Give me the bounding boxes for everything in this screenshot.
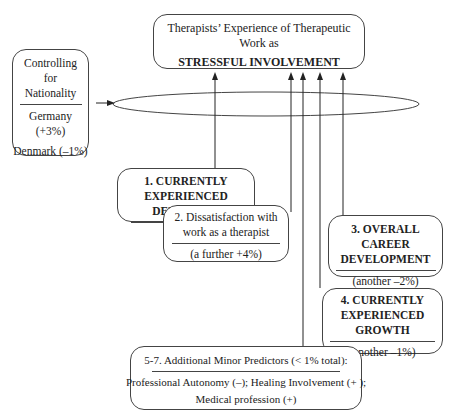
divider [336,270,436,271]
control-nationality-box: Controlling for Nationality Germany (+3%… [12,49,89,156]
target-line1: Therapists’ Experience of Therapeutic Wo… [154,21,364,51]
predictor-3-value: (another –2%) [329,274,442,289]
predictor-2-box: 2. Dissatisfaction with work as a therap… [163,205,289,262]
control-item-germany: Germany (+3%) [13,109,88,139]
control-title-1: Controlling [13,56,88,71]
divider [172,243,280,244]
target-outcome-box: Therapists’ Experience of Therapeutic Wo… [153,14,365,69]
predictor-3-title: 3. OVERALL CAREER DEVELOPMENT [329,222,442,267]
predictor-5-7-value2: Medical profession (+) [131,392,361,407]
target-line2: STRESSFUL INVOLVEMENT [154,55,364,70]
predictor-4-box: 4. CURRENTLY EXPERIENCED GROWTH (another… [322,288,443,354]
predictor-3-box: 3. OVERALL CAREER DEVELOPMENT (another –… [328,215,443,277]
predictor-2-title: 2. Dissatisfaction with work as a therap… [164,210,288,240]
predictor-5-7-title: 5-7. Additional Minor Predictors (< 1% t… [131,353,361,368]
predictor-2-value: (a further +4%) [164,247,288,262]
control-title-2: for [13,71,88,86]
divider [152,371,340,372]
predictor-5-7-value: Professional Autonomy (–); Healing Invol… [117,375,375,390]
predictor-5-7-box: 5-7. Additional Minor Predictors (< 1% t… [130,346,362,410]
divider [20,104,82,105]
control-title-3: Nationality [13,86,88,101]
control-item-denmark: Denmark (–1%) [13,144,88,159]
divider [330,341,435,342]
combined-effect-ellipse [113,92,419,116]
predictor-4-title: 4. CURRENTLY EXPERIENCED GROWTH [323,293,442,338]
